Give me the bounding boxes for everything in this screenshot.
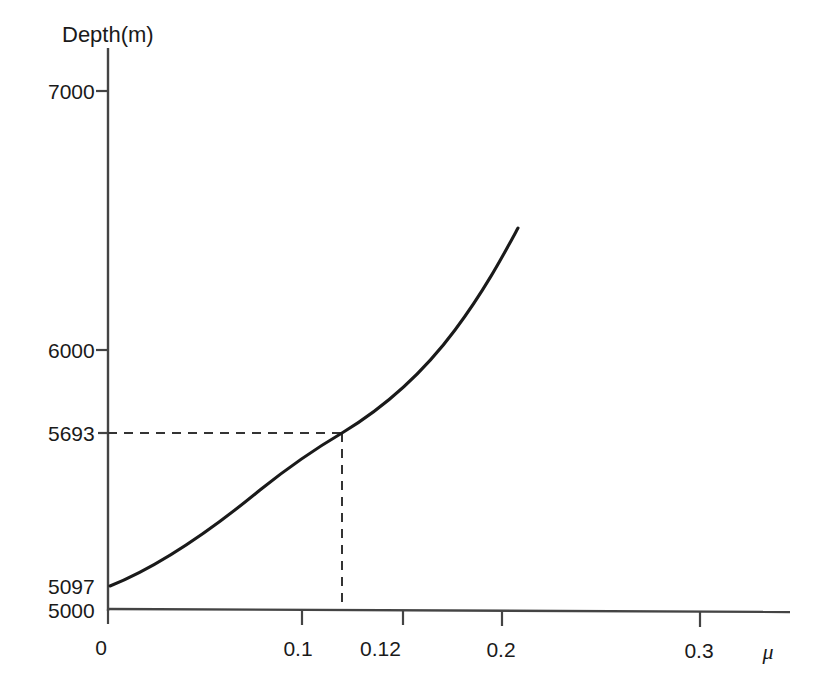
x-tick-label-0.3: 0.3 [684,639,713,662]
depth-vs-mu-chart: Depth(m) 7000 6000 5693 5097 5000 0 0.1 … [0,0,816,679]
x-tick-label-0.1: 0.1 [283,637,312,660]
y-tick-label-6000: 6000 [48,339,95,362]
chart-svg: Depth(m) 7000 6000 5693 5097 5000 0 0.1 … [0,0,816,679]
x-axis-line [108,609,790,612]
x-tick-label-0.2: 0.2 [486,638,515,661]
depth-curve [110,228,518,586]
y-axis-title: Depth(m) [62,22,154,47]
y-tick-label-5693: 5693 [48,422,95,445]
y-tick-label-5097: 5097 [48,575,95,598]
x-tick-label-0.12: 0.12 [360,637,401,660]
y-tick-label-7000: 7000 [48,80,95,103]
x-axis-title-mu: μ [761,639,773,664]
y-tick-label-5000: 5000 [48,599,95,622]
x-tick-label-0: 0 [95,636,107,659]
